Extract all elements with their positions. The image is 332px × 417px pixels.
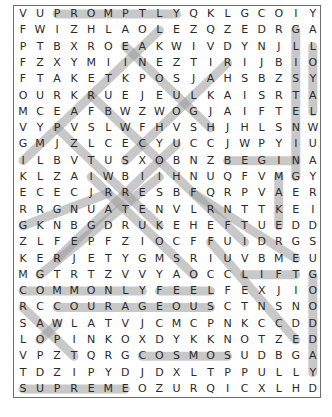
letter-cell[interactable]: V	[168, 120, 185, 136]
letter-cell[interactable]: L	[66, 316, 83, 332]
letter-cell[interactable]: U	[100, 153, 117, 169]
letter-cell[interactable]: Z	[100, 267, 117, 283]
letter-cell[interactable]: L	[270, 365, 287, 381]
letter-cell[interactable]: F	[151, 283, 168, 299]
letter-cell[interactable]: S	[83, 120, 100, 136]
letter-cell[interactable]: F	[15, 55, 32, 71]
letter-cell[interactable]: O	[304, 55, 321, 71]
letter-cell[interactable]: S	[151, 185, 168, 201]
letter-cell[interactable]: R	[66, 267, 83, 283]
letter-cell[interactable]: F	[219, 283, 236, 299]
letter-cell[interactable]: E	[287, 185, 304, 201]
letter-cell[interactable]: D	[219, 39, 236, 55]
letter-cell[interactable]: G	[253, 153, 270, 169]
letter-cell[interactable]: M	[100, 6, 117, 22]
letter-cell[interactable]: N	[49, 218, 66, 234]
letter-cell[interactable]: C	[270, 316, 287, 332]
letter-cell[interactable]: J	[253, 55, 270, 71]
letter-cell[interactable]: T	[117, 202, 134, 218]
letter-cell[interactable]: C	[66, 185, 83, 201]
letter-cell[interactable]: K	[185, 332, 202, 348]
letter-cell[interactable]: Q	[202, 22, 219, 38]
letter-cell[interactable]: X	[134, 153, 151, 169]
letter-cell[interactable]: G	[32, 267, 49, 283]
letter-cell[interactable]: A	[304, 153, 321, 169]
letter-cell[interactable]: E	[287, 104, 304, 120]
letter-cell[interactable]: I	[49, 22, 66, 38]
letter-cell[interactable]: C	[32, 185, 49, 201]
letter-cell[interactable]: Z	[117, 234, 134, 250]
letter-cell[interactable]: I	[236, 88, 253, 104]
letter-cell[interactable]: V	[253, 185, 270, 201]
letter-cell[interactable]: X	[66, 39, 83, 55]
letter-cell[interactable]: Y	[270, 136, 287, 152]
letter-cell[interactable]: V	[253, 169, 270, 185]
letter-cell[interactable]: E	[49, 185, 66, 201]
letter-cell[interactable]: T	[236, 299, 253, 315]
letter-cell[interactable]: M	[185, 348, 202, 364]
letter-cell[interactable]: I	[287, 136, 304, 152]
letter-cell[interactable]: F	[253, 104, 270, 120]
letter-cell[interactable]: E	[168, 22, 185, 38]
letter-cell[interactable]: M	[49, 283, 66, 299]
letter-cell[interactable]: S	[202, 299, 219, 315]
letter-cell[interactable]: K	[100, 332, 117, 348]
letter-cell[interactable]: R	[270, 88, 287, 104]
letter-cell[interactable]: T	[270, 104, 287, 120]
letter-cell[interactable]: E	[66, 234, 83, 250]
letter-cell[interactable]: T	[83, 153, 100, 169]
letter-cell[interactable]: N	[219, 316, 236, 332]
letter-cell[interactable]: U	[134, 218, 151, 234]
letter-cell[interactable]: K	[15, 169, 32, 185]
letter-cell[interactable]: U	[219, 251, 236, 267]
letter-cell[interactable]: L	[32, 169, 49, 185]
letter-cell[interactable]: C	[49, 299, 66, 315]
letter-cell[interactable]: Y	[168, 6, 185, 22]
letter-cell[interactable]: F	[202, 234, 219, 250]
letter-cell[interactable]: U	[100, 88, 117, 104]
letter-cell[interactable]: D	[304, 218, 321, 234]
letter-cell[interactable]: R	[117, 185, 134, 201]
letter-cell[interactable]: I	[185, 39, 202, 55]
letter-cell[interactable]: A	[134, 39, 151, 55]
letter-cell[interactable]: P	[236, 185, 253, 201]
letter-cell[interactable]: G	[134, 299, 151, 315]
letter-cell[interactable]: I	[151, 169, 168, 185]
letter-cell[interactable]: S	[117, 153, 134, 169]
letter-cell[interactable]: L	[270, 381, 287, 397]
letter-cell[interactable]: U	[83, 299, 100, 315]
letter-cell[interactable]: W	[168, 39, 185, 55]
letter-cell[interactable]: L	[287, 39, 304, 55]
letter-cell[interactable]: M	[100, 381, 117, 397]
letter-cell[interactable]: L	[83, 136, 100, 152]
letter-cell[interactable]: T	[253, 202, 270, 218]
letter-cell[interactable]: L	[185, 365, 202, 381]
letter-cell[interactable]: I	[134, 234, 151, 250]
letter-cell[interactable]: C	[15, 283, 32, 299]
letter-cell[interactable]: Z	[168, 55, 185, 71]
letter-cell[interactable]: I	[15, 153, 32, 169]
letter-cell[interactable]: F	[219, 218, 236, 234]
letter-cell[interactable]: O	[151, 234, 168, 250]
letter-cell[interactable]: X	[253, 381, 270, 397]
letter-cell[interactable]: O	[83, 283, 100, 299]
letter-cell[interactable]: B	[66, 218, 83, 234]
letter-cell[interactable]: S	[219, 348, 236, 364]
letter-cell[interactable]: C	[32, 299, 49, 315]
letter-cell[interactable]: W	[117, 104, 134, 120]
letter-cell[interactable]: M	[83, 55, 100, 71]
letter-cell[interactable]: Y	[117, 251, 134, 267]
letter-cell[interactable]: O	[66, 299, 83, 315]
letter-cell[interactable]: T	[32, 71, 49, 87]
letter-cell[interactable]: V	[15, 6, 32, 22]
letter-cell[interactable]: I	[66, 365, 83, 381]
letter-cell[interactable]: N	[83, 332, 100, 348]
letter-cell[interactable]: P	[219, 365, 236, 381]
letter-cell[interactable]: D	[304, 381, 321, 397]
letter-cell[interactable]: Y	[32, 120, 49, 136]
letter-cell[interactable]: L	[15, 332, 32, 348]
letter-cell[interactable]: R	[185, 381, 202, 397]
letter-cell[interactable]: O	[185, 267, 202, 283]
letter-cell[interactable]: Z	[202, 153, 219, 169]
letter-cell[interactable]: L	[185, 202, 202, 218]
